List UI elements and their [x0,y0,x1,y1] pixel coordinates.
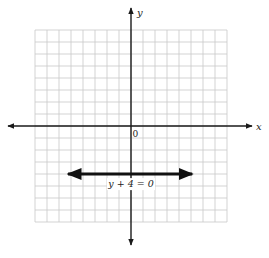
coordinate-plane-diagram: x y 0 y + 4 = 0 [0,0,269,258]
origin-label: 0 [133,129,139,139]
equation-label: y + 4 = 0 [107,178,153,189]
y-axis-label: y [136,7,143,18]
graph-svg: x y 0 y + 4 = 0 [0,0,269,258]
x-axis-label: x [256,121,262,132]
